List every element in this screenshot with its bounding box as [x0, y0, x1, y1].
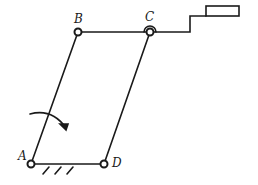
- link-cd: [104, 32, 150, 164]
- slider-block: [206, 6, 239, 16]
- label-c: C: [145, 11, 154, 23]
- ground-hatch-icon: [43, 167, 73, 174]
- label-d: D: [112, 157, 122, 169]
- link-ab: [31, 32, 78, 164]
- linkage-diagram: B C A D: [0, 0, 258, 185]
- label-b: B: [74, 13, 83, 25]
- arrowhead-icon: [60, 124, 68, 130]
- joint-a-icon: [28, 161, 35, 168]
- joint-d-icon: [101, 161, 108, 168]
- linkage-svg: [0, 0, 258, 185]
- stepped-rod: [150, 16, 206, 32]
- joint-b-icon: [75, 29, 82, 36]
- joint-c-icon: [147, 29, 154, 36]
- label-a: A: [18, 150, 27, 162]
